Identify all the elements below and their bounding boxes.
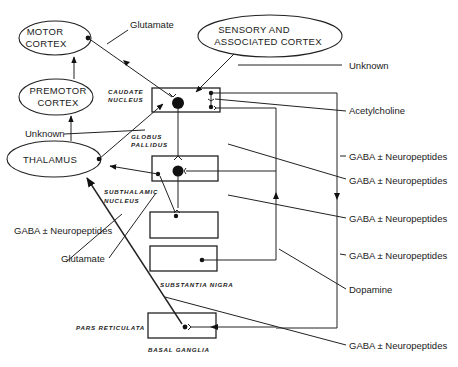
dopamine-label: Dopamine [349, 284, 392, 295]
sensory-cortex-node: SENSORY AND ASSOCIATED CORTEX [198, 15, 342, 57]
globus-label-2: PALLIDUS [131, 141, 168, 148]
substantia-nigra-label: SUBSTANTIA NIGRA [160, 281, 234, 288]
premotor-cortex-label-1: PREMOTOR [29, 85, 86, 96]
sensory-cortex-label-2: ASSOCIATED CORTEX [214, 36, 322, 47]
gaba-label-2: GABA ± Neuropeptides [349, 175, 447, 186]
unknown-left-label: Unknown [25, 128, 65, 139]
gaba3-leader [228, 195, 346, 218]
dopamine-leader [279, 249, 346, 289]
sensory-to-caudate-arrow [196, 54, 234, 92]
descending-arrow-icon [334, 193, 340, 200]
gaba-label-4: GABA ± Neuropeptides [349, 250, 447, 261]
premotor-cortex-label-2: CORTEX [37, 97, 79, 108]
pars-reticulata-box [148, 313, 216, 338]
acetylcholine-leader [215, 99, 346, 111]
caudate-small-neuron-icon [209, 105, 213, 109]
subthalamic-label-1: SUBTHALAMIC [104, 188, 158, 195]
stn-neuron-icon [174, 214, 178, 218]
acetylcholine-label: Acetylcholine [349, 105, 405, 116]
thalamus-node: THALAMUS [7, 141, 101, 177]
substantia-nigra-box [150, 246, 217, 271]
subthalamic-label-2: NUCLEUS [104, 197, 140, 204]
motor-cortex-label-1: MOTOR [27, 26, 64, 37]
ascending-arrow-icon [273, 192, 279, 199]
gaba2-leader [228, 144, 346, 179]
gaba-left-label: GABA ± Neuropeptides [14, 225, 112, 236]
globus-pallidus-box [152, 156, 218, 181]
basal-ganglia-circuit-diagram: MOTOR CORTEX PREMOTOR CORTEX THALAMUS SE… [0, 0, 458, 367]
premotor-cortex-node: PREMOTOR CORTEX [19, 79, 93, 115]
globus-label-1: GLOBUS [131, 133, 162, 140]
caudate-label-2: NUCLEUS [108, 96, 144, 103]
glutamate-left-label: Glutamate [61, 253, 105, 264]
motor-cortex-node: MOTOR CORTEX [19, 21, 91, 55]
caudate-label-1: CAUDATE [108, 88, 143, 95]
gp-to-thalamus-arrow [110, 166, 158, 174]
sensory-cortex-label-1: SENSORY AND [218, 24, 290, 35]
gp-large-neuron-icon [173, 166, 184, 177]
gaba4-leader [340, 254, 346, 255]
caudate-cholinergic-neuron-icon [209, 91, 213, 95]
gaba-label-3: GABA ± Neuropeptides [349, 213, 447, 224]
pars-reticulata-label: PARS RETICULATA [76, 324, 145, 331]
pars-reticulata-neuron-icon [183, 325, 188, 330]
unknown-right-label: Unknown [349, 60, 389, 71]
caudate-large-neuron-icon [172, 97, 184, 109]
basal-ganglia-label: BASAL GANGLIA [148, 346, 210, 353]
gaba-label-5: GABA ± Neuropeptides [349, 340, 447, 351]
glutamate-top-label: Glutamate [130, 19, 174, 30]
subthalamic-nucleus-box [150, 212, 218, 238]
thalamus-label: THALAMUS [23, 154, 77, 165]
motor-cortex-label-2: CORTEX [25, 38, 67, 49]
gaba-label-1: GABA ± Neuropeptides [349, 151, 447, 162]
glutamate-top-leader [107, 30, 128, 44]
